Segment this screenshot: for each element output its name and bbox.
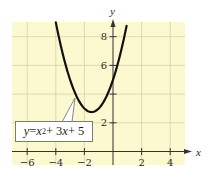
eq-plus-5: + 5	[68, 124, 84, 139]
x-tick-label: −6	[20, 157, 35, 168]
x-tick-label: −2	[77, 157, 92, 168]
y-tick-label: 6	[101, 60, 107, 71]
x-tick-label: 2	[138, 157, 144, 168]
parabola-chart: xy−6−4−224862	[0, 0, 207, 175]
equation-label: y = x2 + 3x + 5	[15, 121, 93, 142]
y-tick-label: 2	[101, 117, 107, 128]
eq-plus-3: + 3	[46, 124, 62, 139]
x-axis-label: x	[195, 146, 201, 158]
x-tick-label: −4	[48, 157, 63, 168]
y-tick-label: 8	[101, 31, 107, 42]
x-axis-arrow	[184, 149, 192, 154]
y-axis-label: y	[109, 5, 115, 17]
plot-background	[12, 22, 185, 165]
x-tick-label: 4	[167, 157, 173, 168]
